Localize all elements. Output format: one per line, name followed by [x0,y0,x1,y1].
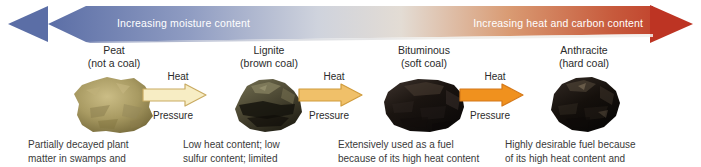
banner-left-label: Increasing moisture content [117,17,250,29]
banner-right-label: Increasing heat and carbon content [473,17,643,29]
caption-anthracite-line1: Highly desirable fuel because [505,138,680,152]
caption-lignite-line1: Low heat content; low [183,138,358,152]
caption-lignite-line2: sulfur content; limited [183,152,358,166]
stage-bituminous-title: Bituminous [340,44,508,57]
stage-anthracite-qualifier: (hard coal) [500,57,668,70]
caption-peat-line1: Partially decayed plant [28,138,203,152]
caption-bituminous-line1: Extensively used as a fuel [338,138,513,152]
caption-bituminous: Extensively used as a fuel because of it… [338,138,513,165]
caption-peat: Partially decayed plant matter in swamps… [28,138,203,165]
stage-lignite-title: Lignite [185,44,353,57]
stage-anthracite: Anthracite (hard coal) [500,44,668,140]
coal-rank-gradient-banner: Increasing moisture content Increasing h… [0,4,701,44]
stage-peat-title: Peat [30,44,198,57]
caption-anthracite: Highly desirable fuel because of its hig… [505,138,680,165]
caption-lignite: Low heat content; low sulfur content; li… [183,138,358,165]
stage-anthracite-title: Anthracite [500,44,668,57]
stage-anthracite-specimen-slot [500,72,668,140]
caption-peat-line2: matter in swamps and [28,152,203,166]
caption-anthracite-line2: of its high heat content and [505,152,680,166]
stage-peat-qualifier: (not a coal) [30,57,198,70]
stage-bituminous-qualifier: (soft coal) [340,57,508,70]
caption-bituminous-line2: because of its high heat content [338,152,513,166]
stage-lignite-qualifier: (brown coal) [185,57,353,70]
coal-rank-diagram: Increasing moisture content Increasing h… [0,0,701,167]
anthracite-specimen [538,74,630,136]
